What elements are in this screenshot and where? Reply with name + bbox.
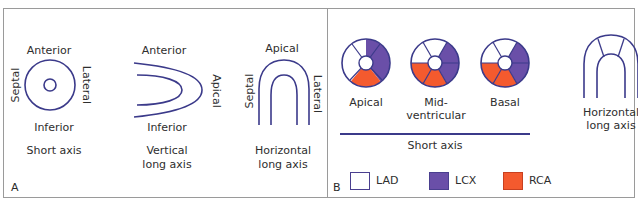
horizontal-long-axis-caption-2: long axis — [586, 119, 635, 132]
short-axis-diagram — [24, 59, 76, 111]
vertical-long-axis-caption-2: long axis — [142, 158, 191, 171]
mid-ventricular-bullseye — [408, 36, 462, 90]
mid-ventricular-label-1: Mid- — [424, 96, 448, 109]
short-axis-line — [340, 133, 530, 135]
horizontal-long-axis-lateral-label: Lateral — [311, 75, 324, 113]
horizontal-long-axis-caption-1: Horizontal — [583, 106, 638, 119]
short-axis-anterior-label: Anterior — [27, 44, 71, 57]
vertical-long-axis-diagram — [134, 61, 209, 121]
short-axis-caption: Short axis — [26, 144, 81, 157]
basal-bullseye — [478, 36, 532, 90]
panel-a-letter: A — [11, 181, 19, 194]
horizontal-long-axis-caption-2: long axis — [258, 158, 307, 171]
short-axis-lateral-label: Lateral — [80, 66, 93, 104]
vertical-long-axis-anterior-label: Anterior — [142, 44, 186, 57]
horizontal-long-axis-diagram — [258, 59, 310, 127]
panel-a: Anterior Septal Lateral Inferior Short a… — [3, 8, 327, 198]
vertical-long-axis-inferior-label: Inferior — [147, 121, 187, 134]
legend-label-rca: RCA — [529, 174, 551, 187]
short-axis-inferior-label: Inferior — [34, 121, 74, 134]
panel-b: Apical Mid- ventricular — [327, 8, 635, 198]
horizontal-long-axis-caption-1: Horizontal — [255, 144, 311, 157]
vertical-long-axis-apical-label: Apical — [210, 74, 223, 107]
short-axis-septal-label: Septal — [9, 68, 22, 103]
horizontal-long-axis-segmented — [583, 34, 638, 100]
legend-label-lcx: LCX — [455, 174, 476, 187]
apical-bullseye — [339, 36, 393, 90]
legend-swatch-lcx — [429, 172, 449, 190]
short-axis-caption: Short axis — [407, 139, 462, 152]
panel-b-letter: B — [333, 181, 341, 194]
apical-label: Apical — [349, 96, 382, 109]
horizontal-long-axis-apical-label: Apical — [265, 42, 298, 55]
vertical-long-axis-caption-1: Vertical — [146, 144, 187, 157]
legend-label-lad: LAD — [376, 174, 398, 187]
legend-swatch-lad — [350, 172, 370, 190]
basal-label: Basal — [490, 96, 520, 109]
horizontal-long-axis-septal-label: Septal — [243, 74, 256, 109]
legend-swatch-rca — [503, 172, 523, 190]
mid-ventricular-label-2: ventricular — [406, 109, 465, 122]
